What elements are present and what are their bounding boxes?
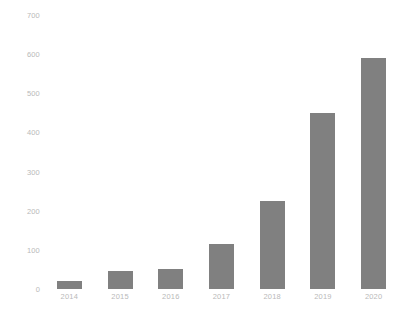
x-axis-tick-label: 2014 — [44, 292, 95, 301]
bar-2018[interactable] — [260, 201, 285, 289]
y-axis-tick-label: 500 — [4, 89, 40, 98]
bar-2017[interactable] — [209, 244, 234, 289]
bar-slot — [44, 15, 95, 289]
bar-2019[interactable] — [310, 113, 335, 289]
bar-slot — [348, 15, 399, 289]
x-axis: 2014201520162017201820192020 — [44, 292, 399, 312]
bar-slot — [298, 15, 349, 289]
x-axis-tick-label: 2018 — [247, 292, 298, 301]
x-axis-tick-label: 2015 — [95, 292, 146, 301]
y-axis-tick-label: 200 — [4, 206, 40, 215]
y-axis-tick-label: 0 — [4, 285, 40, 294]
y-axis-tick-label: 300 — [4, 167, 40, 176]
x-axis-tick-label: 2020 — [348, 292, 399, 301]
bar-2020[interactable] — [361, 58, 386, 289]
bar-2014[interactable] — [57, 281, 82, 289]
bar-slot — [247, 15, 298, 289]
x-axis-tick-label: 2017 — [196, 292, 247, 301]
y-axis-tick-label: 100 — [4, 245, 40, 254]
bar-2015[interactable] — [108, 271, 133, 289]
bar-slot — [145, 15, 196, 289]
plot-area — [44, 15, 399, 289]
y-axis-tick-label: 700 — [4, 11, 40, 20]
bar-chart: 0100200300400500600700 20142015201620172… — [0, 0, 415, 323]
bar-slot — [95, 15, 146, 289]
x-axis-tick-label: 2019 — [298, 292, 349, 301]
y-axis-tick-label: 600 — [4, 50, 40, 59]
y-axis: 0100200300400500600700 — [0, 15, 40, 289]
y-axis-tick-label: 400 — [4, 128, 40, 137]
bar-2016[interactable] — [158, 269, 183, 289]
x-axis-tick-label: 2016 — [145, 292, 196, 301]
bar-slot — [196, 15, 247, 289]
